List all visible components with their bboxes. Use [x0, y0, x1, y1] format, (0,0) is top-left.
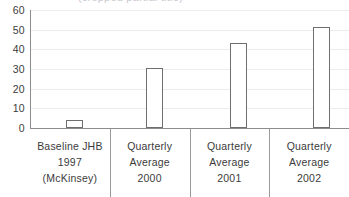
gridline-30: [31, 69, 349, 70]
category-line: 2002: [269, 170, 349, 186]
category-quarterly-average-2001: Quarterly Average 2001: [190, 129, 270, 197]
bar-chart: (cropped partial title) 60 50 40 30 20 1…: [0, 0, 349, 197]
y-tick-label-40: 40: [0, 43, 25, 55]
category-line: 1997: [30, 154, 110, 170]
bar-quarterly-average-2002: [313, 27, 330, 128]
category-axis: Baseline JHB 1997 (McKinsey) Quarterly A…: [30, 129, 349, 197]
bar-baseline-jhb-1997: [66, 120, 83, 128]
y-tick-label-0: 0: [0, 122, 25, 134]
category-line: Quarterly: [269, 138, 349, 154]
category-line: Average: [269, 154, 349, 170]
gridline-20: [31, 89, 349, 90]
category-quarterly-average-2002: Quarterly Average 2002: [269, 129, 349, 197]
category-line: Average: [110, 154, 190, 170]
category-line: Quarterly: [110, 138, 190, 154]
category-line: Average: [190, 154, 270, 170]
category-line: (McKinsey): [30, 170, 110, 186]
y-tick-label-10: 10: [0, 102, 25, 114]
gridline-40: [31, 49, 349, 50]
y-tick-label-50: 50: [0, 24, 25, 36]
plot-area: 60 50 40 30 20 10 0: [30, 10, 349, 129]
gridline-50: [31, 30, 349, 31]
y-tick-label-60: 60: [0, 4, 25, 16]
category-line: Quarterly: [190, 138, 270, 154]
y-tick-label-30: 30: [0, 63, 25, 75]
category-baseline-jhb-1997: Baseline JHB 1997 (McKinsey): [30, 129, 110, 197]
gridline-60: [31, 10, 349, 11]
gridline-10: [31, 108, 349, 109]
bar-quarterly-average-2000: [146, 68, 163, 128]
chart-title-cropped: (cropped partial title): [0, 0, 349, 4]
category-line: Baseline JHB: [30, 138, 110, 154]
chart-title-text: (cropped partial title): [78, 0, 183, 3]
bar-quarterly-average-2001: [230, 43, 247, 128]
category-line: 2000: [110, 170, 190, 186]
y-tick-label-20: 20: [0, 83, 25, 95]
category-quarterly-average-2000: Quarterly Average 2000: [110, 129, 190, 197]
category-line: 2001: [190, 170, 270, 186]
